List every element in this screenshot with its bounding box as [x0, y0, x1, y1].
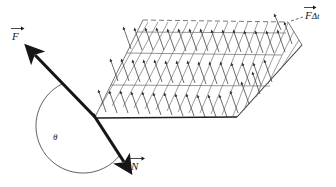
impulse-leader-line: [291, 17, 303, 21]
vector-overbar-icon: [304, 5, 314, 10]
impulse-vector-suffix-text: Δt: [312, 11, 320, 21]
vector-diagram-svg: [0, 0, 336, 187]
force-vector-label-text: F: [12, 30, 19, 42]
normal-vector-label: N: [131, 160, 138, 172]
normal-vector-arrow: [93, 114, 124, 162]
figure-canvas: F N F Δt θ: [0, 0, 336, 187]
impulse-vector-base-text: F: [305, 9, 312, 21]
impulse-field-arrows: [99, 16, 292, 117]
surface-grid-rows: [111, 32, 286, 86]
impulse-vector-label: F Δt: [305, 9, 320, 21]
force-vector-label: F: [12, 30, 19, 42]
angle-theta-label: θ: [53, 132, 57, 142]
vector-overbar-icon: [11, 26, 21, 31]
force-vector-arrow: [35, 55, 95, 117]
normal-vector-label-text: N: [131, 160, 138, 172]
vector-overbar-icon: [130, 156, 140, 161]
